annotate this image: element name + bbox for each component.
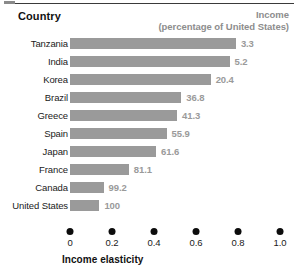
bar-row: Korea20.4 xyxy=(0,72,297,90)
bar-value-label: 55.9 xyxy=(172,128,190,139)
bar-value-label: 81.1 xyxy=(134,164,152,175)
bar-row-country-label: Korea xyxy=(43,74,68,85)
bar-row: United States100 xyxy=(0,198,297,216)
bar-value-label: 61.6 xyxy=(161,146,179,157)
bar-row: Tanzania3.3 xyxy=(0,36,297,54)
x-axis-tick: 0.2 xyxy=(106,228,119,248)
bar xyxy=(70,38,236,49)
bar-row-country-label: India xyxy=(48,56,68,67)
column-header-income-line1: Income xyxy=(158,9,289,21)
bar xyxy=(70,146,156,157)
x-axis-tick-dot-icon xyxy=(276,228,283,235)
x-axis-tick-dot-icon xyxy=(192,228,199,235)
x-axis-tick-label: 0.6 xyxy=(190,237,203,248)
x-axis: 00.20.40.60.81.0 Income elasticity xyxy=(0,228,297,272)
bar xyxy=(70,164,129,175)
column-header-income-line2: (percentage of United States) xyxy=(158,21,289,33)
income-elasticity-chart: Country Income (percentage of United Sta… xyxy=(0,0,297,272)
top-divider-cap xyxy=(4,1,15,4)
bar-row: India5.2 xyxy=(0,54,297,72)
bar-row-country-label: Japan xyxy=(43,146,68,157)
bar-row: Spain55.9 xyxy=(0,126,297,144)
x-axis-tick: 0.4 xyxy=(148,228,161,248)
x-axis-tick: 0.8 xyxy=(232,228,245,248)
bar xyxy=(70,74,211,85)
bar-row: France81.1 xyxy=(0,162,297,180)
x-axis-tick: 0 xyxy=(67,228,74,248)
bar xyxy=(70,200,99,211)
x-axis-tick-label: 0 xyxy=(67,237,74,248)
x-axis-title: Income elasticity xyxy=(62,254,143,265)
bar-row-country-label: Brazil xyxy=(45,92,68,103)
x-axis-tick-dot-icon xyxy=(67,228,74,235)
x-axis-tick-label: 0.8 xyxy=(232,237,245,248)
bar xyxy=(70,182,104,193)
bar-rows: Tanzania3.3India5.2Korea20.4Brazil36.8Gr… xyxy=(0,36,297,216)
bar-row-country-label: Canada xyxy=(35,182,68,193)
bar-value-label: 3.3 xyxy=(241,38,254,49)
top-divider xyxy=(4,3,294,4)
bar xyxy=(70,56,230,67)
x-axis-tick-dot-icon xyxy=(234,228,241,235)
bar-value-label: 100 xyxy=(104,200,120,211)
bar xyxy=(70,128,167,139)
x-axis-tick: 0.6 xyxy=(190,228,203,248)
x-axis-tick-label: 0.2 xyxy=(106,237,119,248)
bar-value-label: 36.8 xyxy=(186,92,204,103)
bar-row-country-label: France xyxy=(39,164,68,175)
x-axis-tick: 1.0 xyxy=(274,228,287,248)
bar-value-label: 41.3 xyxy=(182,110,200,121)
bar-row-country-label: United States xyxy=(12,200,68,211)
bar-value-label: 5.2 xyxy=(235,56,248,67)
column-header-income: Income (percentage of United States) xyxy=(158,9,289,32)
x-axis-tick-dot-icon xyxy=(108,228,115,235)
bar-row-country-label: Spain xyxy=(44,128,68,139)
column-header-country: Country xyxy=(18,10,61,22)
bar-value-label: 20.4 xyxy=(216,74,234,85)
bar-row: Greece41.3 xyxy=(0,108,297,126)
bar xyxy=(70,92,181,103)
bar xyxy=(70,110,177,121)
x-axis-tick-label: 0.4 xyxy=(148,237,161,248)
x-axis-tick-label: 1.0 xyxy=(274,237,287,248)
x-axis-tick-dot-icon xyxy=(150,228,157,235)
bar-value-label: 99.2 xyxy=(109,182,127,193)
bar-row: Canada99.2 xyxy=(0,180,297,198)
bar-row: Japan61.6 xyxy=(0,144,297,162)
bar-row-country-label: Tanzania xyxy=(31,38,68,49)
bar-row: Brazil36.8 xyxy=(0,90,297,108)
bar-row-country-label: Greece xyxy=(37,110,68,121)
